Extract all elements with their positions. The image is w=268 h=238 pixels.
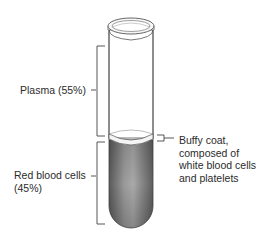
red-blood-cells-label-line-2: (45%) bbox=[14, 182, 86, 195]
red-blood-cells-bracket bbox=[91, 142, 105, 224]
plasma-bracket bbox=[91, 46, 105, 136]
test-tube-illustration bbox=[0, 0, 268, 238]
red-blood-cells-label: Red blood cells (45%) bbox=[14, 169, 86, 194]
plasma-label: Plasma (55%) bbox=[20, 84, 86, 97]
plasma-layer bbox=[109, 30, 153, 140]
buffy-coat-bracket bbox=[157, 135, 174, 141]
plasma-label-text: Plasma (55%) bbox=[20, 84, 86, 96]
buffy-coat-label-line-2: composed of bbox=[179, 147, 256, 160]
buffy-coat-label-line-4: and platelets bbox=[179, 172, 256, 185]
buffy-coat-label-line-3: white blood cells bbox=[179, 159, 256, 172]
buffy-coat-label: Buffy coat, composed of white blood cell… bbox=[179, 134, 256, 184]
red-blood-cells-layer bbox=[109, 140, 153, 228]
buffy-coat-label-line-1: Buffy coat, bbox=[179, 134, 256, 147]
blood-tube-diagram: Plasma (55%) Buffy coat, composed of whi… bbox=[0, 0, 268, 238]
red-blood-cells-label-line-1: Red blood cells bbox=[14, 169, 86, 182]
